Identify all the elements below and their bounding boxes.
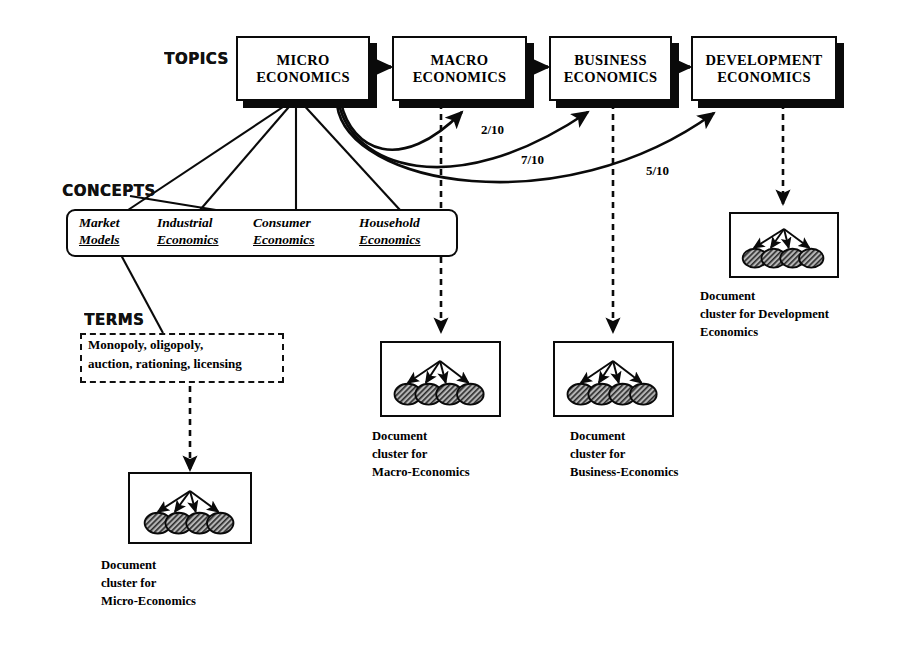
cluster-macro-caption-line3: Macro-Economics	[372, 464, 470, 482]
cluster-box-development[interactable]	[729, 212, 839, 278]
curve-micro-macro	[341, 103, 462, 150]
terms-text[interactable]: Monopoly, oligopoly, auction, rationing,…	[88, 336, 288, 374]
micro-to-concepts-fan	[128, 101, 400, 210]
cluster-box-macro[interactable]	[380, 341, 501, 417]
cluster-caption-business: Document cluster for Business-Economics	[570, 428, 678, 482]
topic-box-business[interactable]: BUSINESS ECONOMICS	[549, 36, 672, 101]
topic-development-line2: ECONOMICS	[706, 69, 823, 85]
topic-business-line1: BUSINESS	[564, 52, 658, 68]
concept-market-models-line1: Market	[79, 215, 120, 232]
cluster-caption-development: Document cluster for Development Economi…	[700, 288, 829, 342]
ratio-label-micro-development: 5/10	[646, 163, 669, 179]
concept-industrial-line2: Economics	[157, 232, 219, 249]
concept-consumer-line2: Economics	[253, 232, 315, 249]
section-label-concepts: CONCEPTS	[62, 181, 156, 200]
topic-macro-line2: ECONOMICS	[413, 69, 507, 85]
cluster-art-macro	[382, 343, 499, 415]
cluster-micro-caption-line3: Micro-Economics	[101, 593, 196, 611]
cluster-micro-caption-line1: Document	[101, 557, 196, 575]
topic-box-development[interactable]: DEVELOPMENT ECONOMICS	[691, 36, 837, 101]
cluster-business-caption-line2: cluster for	[570, 446, 678, 464]
cluster-development-caption-line1: Document	[700, 288, 829, 306]
cluster-box-business[interactable]	[553, 341, 674, 417]
topic-box-macro[interactable]: MACRO ECONOMICS	[392, 36, 527, 101]
concept-consumer-economics[interactable]: Consumer Economics	[253, 215, 315, 249]
concept-industrial-economics[interactable]: Industrial Economics	[157, 215, 219, 249]
ratio-label-micro-business: 7/10	[521, 152, 544, 168]
concept-market-models-line2: Models	[79, 232, 120, 249]
cluster-caption-micro: Document cluster for Micro-Economics	[101, 557, 196, 611]
section-label-terms: TERMS	[84, 310, 144, 329]
cluster-macro-caption-line2: cluster for	[372, 446, 470, 464]
terms-line2: auction, rationing, licensing	[88, 355, 288, 374]
cluster-art-business	[555, 343, 672, 415]
cluster-art-development	[731, 214, 837, 276]
topic-box-micro[interactable]: MICRO ECONOMICS	[236, 36, 370, 101]
concept-household-line2: Economics	[359, 232, 421, 249]
cluster-box-micro[interactable]	[128, 472, 252, 544]
cluster-micro-caption-line2: cluster for	[101, 575, 196, 593]
topic-micro-line2: ECONOMICS	[256, 69, 350, 85]
cluster-development-caption-line3: Economics	[700, 324, 829, 342]
topic-development-line1: DEVELOPMENT	[706, 52, 823, 68]
cluster-macro-caption-line1: Document	[372, 428, 470, 446]
topic-macro-line1: MACRO	[413, 52, 507, 68]
topic-micro-line1: MICRO	[256, 52, 350, 68]
terms-line1: Monopoly, oligopoly,	[88, 336, 288, 355]
section-label-topics: TOPICS	[164, 49, 229, 68]
concept-market-models[interactable]: Market Models	[79, 215, 120, 249]
concept-industrial-line1: Industrial	[157, 215, 219, 232]
diagram-canvas: TOPICS CONCEPTS TERMS MICRO ECONOMICS MA…	[0, 0, 911, 655]
concept-household-economics[interactable]: Household Economics	[359, 215, 421, 249]
concept-household-line1: Household	[359, 215, 421, 232]
cluster-caption-macro: Document cluster for Macro-Economics	[372, 428, 470, 482]
cluster-art-micro	[130, 474, 250, 542]
topic-business-line2: ECONOMICS	[564, 69, 658, 85]
cluster-business-caption-line3: Business-Economics	[570, 464, 678, 482]
ratio-label-micro-macro: 2/10	[481, 122, 504, 138]
concept-consumer-line1: Consumer	[253, 215, 315, 232]
curve-micro-business	[339, 104, 588, 167]
cluster-business-caption-line1: Document	[570, 428, 678, 446]
cluster-development-caption-line2: cluster for Development	[700, 306, 829, 324]
